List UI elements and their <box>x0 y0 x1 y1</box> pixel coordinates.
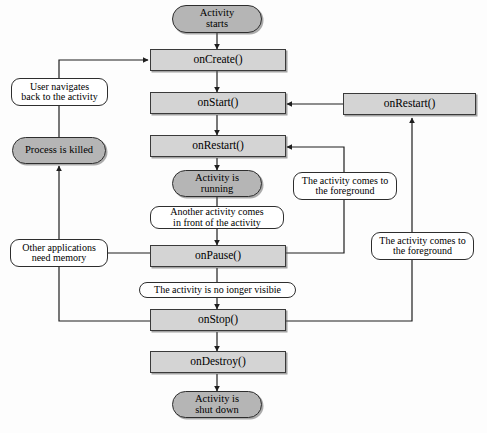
node-another-activity-in-front[interactable]: Another activity comes in front of the a… <box>150 206 284 229</box>
edge-stop-to-other-apps <box>59 267 150 321</box>
edge-stop-to-restart-right-foreground <box>285 118 412 321</box>
node-on-destroy-label: onDestroy() <box>187 356 249 368</box>
node-other-apps-need-memory[interactable]: Other applications need memory <box>10 239 108 267</box>
node-foreground-from-stop[interactable]: The activity comes to the foreground <box>371 232 474 260</box>
node-on-create[interactable]: onCreate() <box>150 49 286 71</box>
node-on-stop[interactable]: onStop() <box>150 309 286 331</box>
node-foreground-from-pause-label: The activity comes to the foreground <box>299 176 391 197</box>
node-on-restart-center-label: onRestart() <box>189 140 247 152</box>
node-activity-shut-down-label: Activity is shut down <box>192 394 242 416</box>
node-foreground-from-pause[interactable]: The activity comes to the foreground <box>293 172 397 200</box>
node-on-start-label: onStart() <box>195 97 242 109</box>
node-no-longer-visible[interactable]: The activity is no ionger visibie <box>139 282 296 298</box>
node-on-pause[interactable]: onPause() <box>150 245 286 267</box>
node-another-activity-in-front-label: Another activity comes in front of the a… <box>167 207 266 228</box>
node-user-navigates-back[interactable]: User navigates back to the activity <box>11 78 108 106</box>
node-foreground-from-stop-label: The activity comes to the foreground <box>376 236 468 257</box>
node-on-create-label: onCreate() <box>190 54 245 66</box>
node-on-restart-center[interactable]: onRestart() <box>150 135 286 157</box>
node-activity-shut-down[interactable]: Activity is shut down <box>172 391 262 418</box>
node-on-pause-label: onPause() <box>192 250 244 262</box>
activity-lifecycle-diagram: Activity starts onCreate() onStart() onR… <box>0 0 487 433</box>
node-on-restart-right[interactable]: onRestart() <box>343 93 476 115</box>
node-user-navigates-back-label: User navigates back to the activity <box>18 82 100 103</box>
edge-pause-to-restart-foreground <box>285 147 344 253</box>
node-on-start[interactable]: onStart() <box>150 92 286 114</box>
node-activity-starts-label: Activity starts <box>197 8 237 30</box>
node-on-destroy[interactable]: onDestroy() <box>150 351 286 373</box>
node-other-apps-need-memory-label: Other applications need memory <box>19 243 99 264</box>
node-process-is-killed[interactable]: Process is killed <box>12 137 106 164</box>
node-process-is-killed-label: Process is killed <box>22 145 96 156</box>
edge-user-navigates-to-create <box>59 60 148 78</box>
node-activity-starts[interactable]: Activity starts <box>172 5 262 33</box>
node-no-longer-visible-label: The activity is no ionger visibie <box>151 285 284 295</box>
node-on-stop-label: onStop() <box>195 314 241 326</box>
node-activity-running[interactable]: Activity is running <box>172 170 262 197</box>
node-activity-running-label: Activity is running <box>192 173 242 195</box>
node-on-restart-right-label: onRestart() <box>381 98 439 110</box>
